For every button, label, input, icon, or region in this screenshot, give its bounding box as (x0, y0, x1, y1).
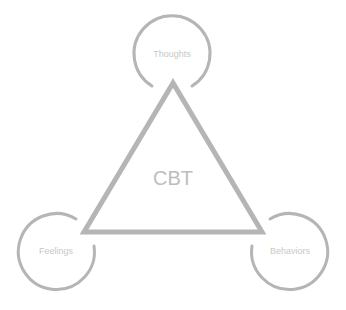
feelings-label: Feelings (39, 246, 74, 256)
node-thoughts: Thoughts (134, 16, 210, 86)
center-label-cbt: CBT (153, 167, 193, 189)
thoughts-label: Thoughts (153, 49, 191, 59)
node-feelings: Feelings (18, 214, 94, 290)
behaviors-label: Behaviors (270, 246, 311, 256)
cbt-triangle (84, 83, 262, 232)
cbt-diagram: Thoughts Feelings Behaviors CBT (0, 0, 346, 310)
node-behaviors: Behaviors (252, 214, 328, 290)
